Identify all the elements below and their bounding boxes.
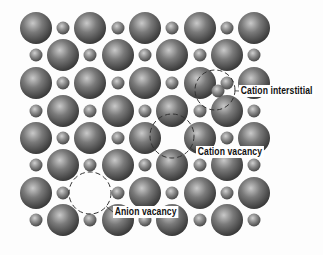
cation-sphere — [30, 105, 43, 118]
cation-sphere — [248, 214, 261, 227]
cation-sphere — [221, 132, 234, 145]
anion-sphere — [211, 39, 243, 71]
cation-sphere — [139, 159, 152, 172]
anion-sphere — [102, 39, 134, 71]
anion-sphere — [184, 177, 216, 209]
cation-sphere — [84, 105, 97, 118]
anion-sphere — [156, 149, 188, 181]
lattice-spheres — [20, 12, 270, 236]
cation-sphere — [221, 22, 234, 35]
cation-sphere — [248, 105, 261, 118]
cation-sphere — [139, 49, 152, 62]
anion-sphere — [74, 122, 106, 154]
cation-sphere — [166, 22, 179, 35]
anion-sphere — [129, 122, 161, 154]
cation-sphere — [194, 105, 207, 118]
cation-sphere — [57, 132, 70, 145]
cation-sphere — [57, 77, 70, 90]
cation-sphere — [112, 22, 125, 35]
anion-sphere — [47, 39, 79, 71]
cation-sphere — [166, 77, 179, 90]
cation-sphere — [248, 49, 261, 62]
cation-sphere — [112, 187, 125, 200]
anion-sphere — [211, 204, 243, 236]
cation-sphere — [112, 132, 125, 145]
anion-sphere — [47, 149, 79, 181]
cation-sphere — [84, 49, 97, 62]
cation-sphere — [30, 159, 43, 172]
anion-sphere — [129, 67, 161, 99]
cation-sphere — [57, 187, 70, 200]
cation-sphere — [194, 214, 207, 227]
anion-sphere — [47, 95, 79, 127]
anion-sphere — [129, 177, 161, 209]
anion-sphere — [238, 12, 270, 44]
anion-sphere — [129, 12, 161, 44]
cation-interstitial-label: Cation interstitial — [239, 85, 314, 97]
cation-sphere — [84, 159, 97, 172]
anion-sphere — [102, 149, 134, 181]
cation-sphere — [221, 187, 234, 200]
anion-sphere — [156, 95, 188, 127]
cation-sphere — [112, 77, 125, 90]
cation-vacancy-label: Cation vacancy — [196, 146, 264, 158]
anion-sphere — [156, 39, 188, 71]
anion-vacancy-label: Anion vacancy — [113, 206, 178, 218]
anion-sphere — [184, 12, 216, 44]
anion-sphere — [238, 177, 270, 209]
anion-sphere — [20, 177, 52, 209]
cation-sphere — [248, 159, 261, 172]
interstitial-cation-sphere — [212, 85, 225, 98]
cation-sphere — [30, 49, 43, 62]
anion-vacancy-marker-circle — [69, 172, 111, 214]
anion-sphere — [47, 204, 79, 236]
anion-sphere — [74, 67, 106, 99]
anion-sphere — [184, 67, 216, 99]
anion-sphere — [20, 12, 52, 44]
cation-sphere — [84, 214, 97, 227]
cation-sphere — [139, 105, 152, 118]
anion-sphere — [20, 67, 52, 99]
cation-sphere — [30, 214, 43, 227]
cation-sphere — [194, 49, 207, 62]
cation-sphere — [57, 22, 70, 35]
anion-sphere — [74, 12, 106, 44]
anion-sphere — [102, 95, 134, 127]
cation-sphere — [166, 187, 179, 200]
anion-sphere — [211, 95, 243, 127]
cation-sphere — [194, 159, 207, 172]
anion-sphere — [20, 122, 52, 154]
